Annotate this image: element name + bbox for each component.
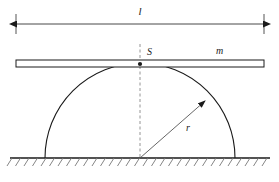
radius-arrow-group: r xyxy=(140,101,205,158)
radius-arrow xyxy=(140,101,205,158)
radius-label: r xyxy=(186,122,190,133)
dimension-group-length xyxy=(16,14,264,34)
diagram-canvas: l xyxy=(0,0,279,182)
contact-point-label: S xyxy=(147,46,152,57)
length-label: l xyxy=(138,5,141,17)
contact-point-marker xyxy=(138,62,142,66)
mass-label: m xyxy=(216,45,223,56)
physics-diagram: l xyxy=(0,0,279,182)
ground-group xyxy=(7,158,270,166)
ground-hatching xyxy=(7,158,267,166)
